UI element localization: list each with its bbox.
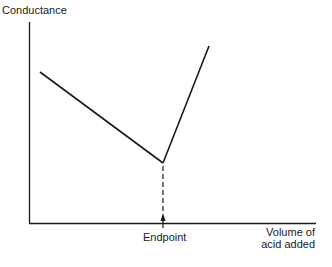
x-axis-label-line2: acid added bbox=[261, 238, 315, 250]
x-axis-label: Volume of acid added bbox=[261, 226, 315, 250]
x-axis-label-line1: Volume of bbox=[261, 226, 315, 238]
y-axis-label: Conductance bbox=[2, 4, 67, 16]
curve-increasing-segment bbox=[163, 46, 209, 163]
curve-decreasing-segment bbox=[40, 72, 163, 163]
endpoint-label: Endpoint bbox=[143, 231, 186, 243]
conductance-titration-diagram: Conductance Endpoint Volume of acid adde… bbox=[0, 0, 332, 267]
